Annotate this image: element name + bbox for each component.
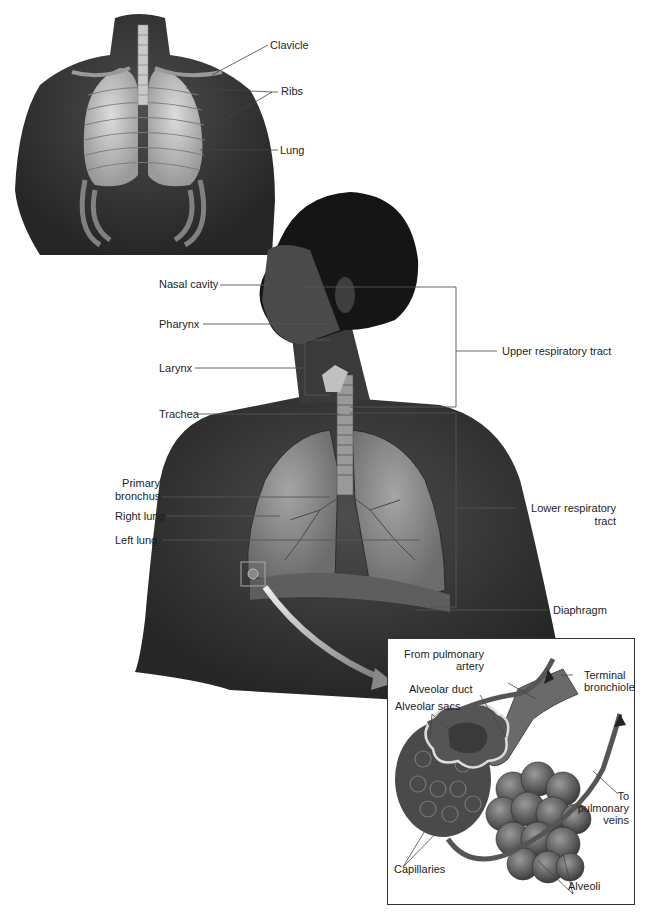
label-left-lung: Left lung	[115, 534, 157, 547]
label-upper-respiratory-tract: Upper respiratory tract	[502, 345, 611, 358]
label-primary-bronchus-line2: bronchus	[115, 490, 160, 503]
label-lower-respiratory-tract-line2: tract	[519, 515, 616, 528]
top-torso	[15, 14, 275, 255]
label-trachea: Trachea	[159, 408, 199, 421]
label-terminal-bronchiole-line2: bronchiole	[584, 681, 635, 694]
label-lower-respiratory-tract-line1: Lower respiratory	[519, 502, 616, 515]
label-from-pulmonary-artery-line2: artery	[400, 660, 484, 673]
label-alveolar-duct: Alveolar duct	[409, 683, 473, 696]
label-diaphragm: Diaphragm	[553, 604, 607, 617]
label-pharynx: Pharynx	[159, 318, 199, 331]
label-primary-bronchus-line1: Primary	[112, 477, 160, 490]
label-ribs: Ribs	[281, 85, 303, 98]
label-nasal-cavity: Nasal cavity	[159, 278, 218, 291]
main-body	[135, 192, 560, 700]
label-right-lung: Right lung	[115, 510, 165, 523]
label-to-pulmonary-veins-line3: veins	[570, 814, 629, 827]
label-alveoli: Alveoli	[568, 880, 600, 893]
label-clavicle: Clavicle	[270, 39, 309, 52]
label-alveolar-sacs: Alveolar sacs	[395, 700, 460, 713]
label-larynx: Larynx	[159, 362, 192, 375]
label-capillaries: Capillaries	[394, 863, 445, 876]
label-lung: Lung	[280, 144, 304, 157]
